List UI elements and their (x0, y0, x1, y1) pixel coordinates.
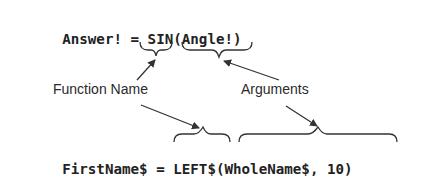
arrow-fn-to-sin (137, 60, 155, 80)
braces (140, 42, 397, 142)
arrow-fn-to-left (141, 105, 199, 128)
brace-angle-args (182, 42, 252, 57)
brace-left-args (239, 127, 397, 142)
brace-left (174, 127, 230, 142)
arrow-args-to-whole (286, 106, 317, 126)
arrows (137, 60, 317, 128)
annotation-overlay (0, 0, 432, 179)
arrow-args-to-angle (224, 61, 279, 80)
brace-sin (140, 42, 172, 56)
